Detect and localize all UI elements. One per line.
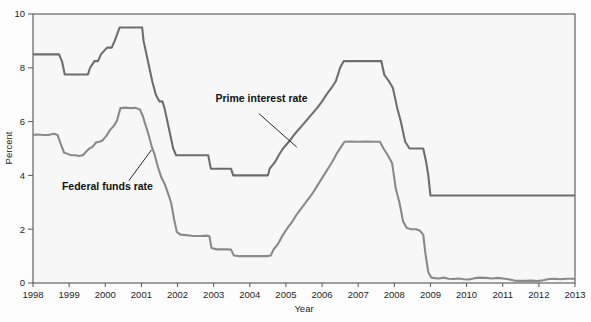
x-tick-label: 2013 [564,289,585,300]
y-tick-label: 4 [20,170,25,181]
y-axis-title: Percent [3,131,14,164]
x-tick-label: 2004 [239,289,260,300]
x-tick-label: 2000 [95,289,116,300]
x-tick-label: 2009 [420,289,441,300]
x-tick-label: 2003 [203,289,224,300]
x-tick-label: 2005 [275,289,296,300]
x-tick-label: 2010 [456,289,477,300]
y-tick-label: 2 [20,224,25,235]
plot-background [33,14,575,283]
x-axis-title: Year [294,303,313,314]
chart-container: 0246810 19981999200020012002200320042005… [0,0,591,322]
y-tick-label: 8 [20,62,25,73]
y-tick-label: 6 [20,116,25,127]
x-tick-label: 2002 [167,289,188,300]
x-tick-label: 2008 [384,289,405,300]
y-axis-ticks: 0246810 [14,8,33,288]
x-tick-label: 2011 [493,289,513,300]
x-tick-label: 1999 [59,289,80,300]
interest-rates-line-chart: 0246810 19981999200020012002200320042005… [0,0,591,322]
y-tick-label: 10 [14,8,25,19]
series-label-prime-interest-rate: Prime interest rate [215,92,307,104]
series-label-federal-funds-rate: Federal funds rate [62,180,153,192]
x-tick-label: 2007 [348,289,369,300]
x-tick-label: 1998 [22,289,43,300]
x-tick-label: 2001 [131,289,152,300]
y-tick-label: 0 [20,277,25,288]
x-axis-ticks: 1998199920002001200220032004200520062007… [22,283,585,300]
x-tick-label: 2006 [311,289,332,300]
x-tick-label: 2012 [528,289,549,300]
